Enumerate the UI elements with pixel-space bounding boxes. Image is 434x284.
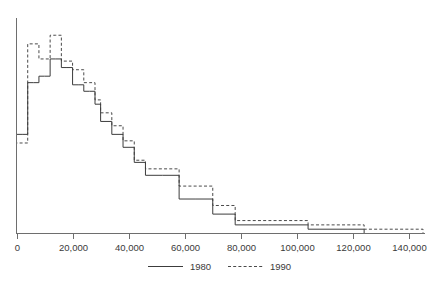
x-tick-label-2: 40,000 bbox=[115, 242, 144, 253]
chart-legend: 1980 1990 bbox=[148, 261, 291, 272]
chart-figure: 020,00040,00060,00080,000100,000120,0001… bbox=[0, 0, 434, 284]
series-line-1980 bbox=[17, 59, 424, 234]
x-tick-label-6: 120,000 bbox=[336, 242, 370, 253]
x-tick-label-1: 20,000 bbox=[59, 242, 88, 253]
legend-label-1980: 1980 bbox=[190, 261, 211, 272]
series-line-1990 bbox=[17, 35, 424, 233]
x-tick-label-0: 0 bbox=[15, 242, 20, 253]
x-tick-label-3: 60,000 bbox=[171, 242, 200, 253]
x-axis-ticks bbox=[18, 234, 410, 239]
axes-group bbox=[17, 18, 426, 239]
x-axis-tick-labels: 020,00040,00060,00080,000100,000120,0001… bbox=[15, 242, 427, 253]
x-tick-label-7: 140,000 bbox=[392, 242, 426, 253]
x-tick-label-5: 100,000 bbox=[280, 242, 314, 253]
legend-label-1990: 1990 bbox=[270, 261, 291, 272]
series-group bbox=[17, 35, 424, 233]
x-tick-label-4: 80,000 bbox=[227, 242, 256, 253]
step-histogram-plot: 020,00040,00060,00080,000100,000120,0001… bbox=[0, 0, 434, 284]
